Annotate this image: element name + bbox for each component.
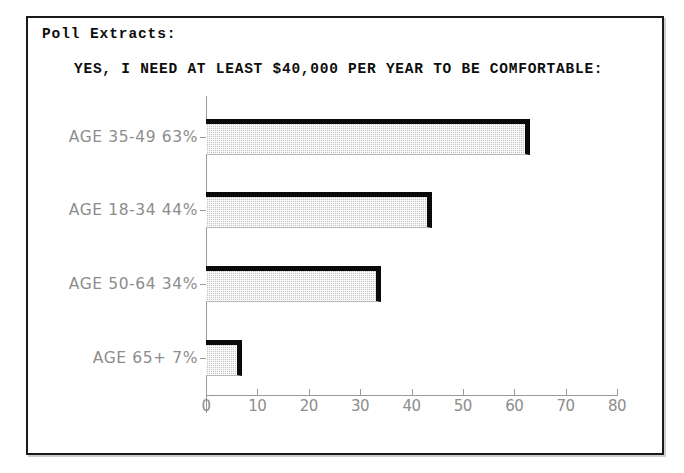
category-label: AGE 35-49 63% (69, 128, 198, 146)
x-axis-tick-label: 0 (201, 397, 210, 415)
x-axis-tick-label: 20 (300, 397, 318, 415)
category-label: AGE 50-64 34% (69, 275, 198, 293)
x-axis-tick-label: 30 (351, 397, 369, 415)
bar (206, 119, 530, 155)
bar-chart-plot-area: 01020304050607080 AGE 35-49 63%AGE 18-34… (28, 18, 666, 457)
x-axis-tick (257, 389, 258, 396)
x-axis-tick-label: 40 (402, 397, 420, 415)
bar (206, 340, 242, 376)
screenshot-root: Poll Extracts: YES, I NEED AT LEAST $40,… (0, 0, 684, 473)
document-frame: Poll Extracts: YES, I NEED AT LEAST $40,… (26, 16, 664, 455)
bar (206, 192, 432, 228)
x-axis-tick-label: 10 (248, 397, 266, 415)
x-axis-tick (617, 389, 618, 396)
x-axis-tick (514, 389, 515, 396)
x-axis-tick (309, 389, 310, 396)
x-axis-tick (360, 389, 361, 396)
x-axis-tick (566, 389, 567, 396)
x-axis-tick-label: 60 (505, 397, 523, 415)
category-label: AGE 65+ 7% (93, 349, 198, 367)
x-axis-tick (463, 389, 464, 396)
x-axis-tick (206, 389, 207, 396)
bar (206, 266, 381, 302)
category-label: AGE 18-34 44% (69, 201, 198, 219)
x-axis-tick-label: 50 (454, 397, 472, 415)
x-axis-tick-label: 70 (557, 397, 575, 415)
x-axis-tick (412, 389, 413, 396)
x-axis-tick-label: 80 (608, 397, 626, 415)
